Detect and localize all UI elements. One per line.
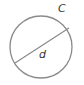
circle-diagram: C d (0, 0, 84, 85)
circumference-label: C (58, 2, 66, 15)
circle-outline (10, 16, 72, 78)
diameter-label: d (39, 48, 47, 61)
